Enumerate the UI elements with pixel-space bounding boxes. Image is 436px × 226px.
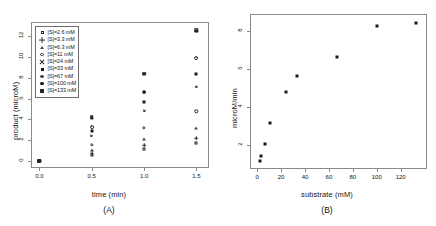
legend-glyph-icon xyxy=(40,75,44,79)
legend-glyph-icon xyxy=(40,89,44,93)
data-point-series-8 xyxy=(142,72,146,76)
x-tick-label: 1.0 xyxy=(132,173,156,179)
x-tick-label: 1.5 xyxy=(184,173,208,179)
legend-label: [S]=133 mM xyxy=(48,88,77,93)
legend-glyph-icon xyxy=(40,46,44,49)
legend-label: [S]=100 mM xyxy=(48,81,77,86)
y-tick-label: 6 xyxy=(237,62,243,74)
y-tick-label: 12 xyxy=(18,29,24,41)
data-point-series-1 xyxy=(142,144,146,148)
data-point xyxy=(415,22,418,25)
y-tick-mark xyxy=(28,78,31,79)
panel-caption-b: (B) xyxy=(218,205,436,215)
legend-symbol-cross-icon xyxy=(39,59,45,65)
x-tick-label: 100 xyxy=(365,174,389,180)
legend-label: [S]=11 mM xyxy=(48,52,73,57)
legend-symbol-triangle-open-icon xyxy=(39,44,45,50)
plot-area-b xyxy=(250,14,427,169)
legend-symbol-square-dot-icon xyxy=(39,88,45,94)
y-tick-mark xyxy=(28,119,31,120)
data-point-series-8 xyxy=(195,28,199,32)
y-tick-label: 8 xyxy=(237,24,243,36)
data-point-series-1 xyxy=(195,136,199,140)
data-point xyxy=(284,91,287,94)
legend-symbol-circle-open-icon xyxy=(39,52,45,58)
y-tick-mark xyxy=(247,31,250,32)
data-point-series-5 xyxy=(195,72,198,75)
legend-item: [S]=11 mM xyxy=(38,51,76,58)
x-tick-mark xyxy=(257,169,258,172)
data-point-series-6 xyxy=(142,90,146,94)
y-tick-mark xyxy=(247,145,250,146)
legend-item: [S]=133 mM xyxy=(38,87,76,94)
legend-item: [S]=33 mM xyxy=(38,65,76,72)
x-tick-label: 0.0 xyxy=(27,173,51,179)
legend-symbol-circle-dot-icon xyxy=(39,73,45,79)
data-point xyxy=(336,56,339,59)
y-axis-label-b: microM/min xyxy=(230,88,239,128)
legend-glyph-icon xyxy=(40,60,43,63)
x-tick-mark xyxy=(39,168,40,171)
y-tick-mark xyxy=(247,107,250,108)
legend-symbol-plus-icon xyxy=(39,37,45,43)
legend-glyph-icon xyxy=(40,82,43,85)
legend-symbol-square-open-icon xyxy=(39,30,45,36)
data-point-series-2 xyxy=(90,148,94,151)
panel-b: 0204060801001202468 substrate (mM) micro… xyxy=(218,0,436,226)
y-tick-mark xyxy=(28,36,31,37)
x-tick-label: 20 xyxy=(269,174,293,180)
legend-label: [S]=2.6 mM xyxy=(48,30,75,35)
y-tick-mark xyxy=(28,140,31,141)
x-tick-mark xyxy=(281,169,282,172)
data-point-series-6 xyxy=(90,125,94,129)
x-tick-mark xyxy=(196,168,197,171)
data-point-series-8 xyxy=(90,115,94,119)
x-tick-mark xyxy=(92,168,93,171)
legend-label: [S]=67 mM xyxy=(48,74,74,79)
y-tick-label: 10 xyxy=(18,50,24,62)
legend-symbol-circle-fill-icon xyxy=(39,81,45,87)
panel-caption-a: (A) xyxy=(0,205,218,215)
data-point xyxy=(260,154,263,157)
y-tick-mark xyxy=(28,99,31,100)
legend-label: [S]=24 mM xyxy=(48,59,74,64)
two-panel-figure: 0.00.51.01.5024681012 [S]=2.6 mM[S]=3.3 … xyxy=(0,0,436,226)
legend-item: [S]=3.3 mM xyxy=(38,36,76,43)
data-point-series-2 xyxy=(142,137,146,140)
data-point xyxy=(269,122,272,125)
data-point-series-1 xyxy=(90,151,94,155)
legend-a: [S]=2.6 mM[S]=3.3 mM[S]=6.3 mM[S]=11 mM[… xyxy=(35,26,79,98)
data-point-series-0 xyxy=(143,147,146,150)
data-point xyxy=(295,74,298,77)
x-tick-mark xyxy=(377,169,378,172)
x-tick-mark xyxy=(353,169,354,172)
legend-item: [S]=6.3 mM xyxy=(38,44,76,51)
y-tick-label: 0 xyxy=(18,154,24,166)
legend-glyph-icon xyxy=(41,31,44,34)
x-tick-mark xyxy=(329,169,330,172)
y-tick-mark xyxy=(28,161,31,162)
data-point xyxy=(259,160,262,163)
panel-a: 0.00.51.01.5024681012 [S]=2.6 mM[S]=3.3 … xyxy=(0,0,218,226)
y-tick-label: 2 xyxy=(237,138,243,150)
x-axis-label-b: substrate (mM) xyxy=(218,190,436,199)
data-point-series-8 xyxy=(38,159,42,163)
legend-glyph-icon xyxy=(40,53,43,56)
legend-item: [S]=24 mM xyxy=(38,58,76,65)
legend-item: [S]=2.6 mM xyxy=(38,29,76,36)
data-point-series-6 xyxy=(195,56,199,60)
y-axis-label-a: product (microM) xyxy=(11,82,20,140)
legend-glyph-icon xyxy=(41,68,44,71)
x-tick-mark xyxy=(401,169,402,172)
x-tick-label: 0 xyxy=(245,174,269,180)
data-point xyxy=(375,24,378,27)
x-tick-mark xyxy=(305,169,306,172)
legend-item: [S]=67 mM xyxy=(38,73,76,80)
x-tick-label: 60 xyxy=(317,174,341,180)
x-tick-label: 120 xyxy=(389,174,413,180)
x-tick-label: 40 xyxy=(293,174,317,180)
y-tick-mark xyxy=(247,69,250,70)
x-tick-mark xyxy=(144,168,145,171)
data-point-series-5 xyxy=(90,130,93,133)
data-point-series-4 xyxy=(90,135,93,138)
